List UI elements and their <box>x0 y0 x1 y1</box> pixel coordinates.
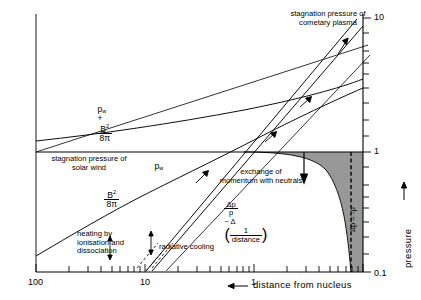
x-tick-label-0.1: 0.1 <box>374 268 387 278</box>
y-axis-label: pressure <box>403 229 414 268</box>
x-label-arrow-icon <box>228 283 248 288</box>
y-axis-ticks <box>363 18 371 272</box>
annotation-exchange-formula: Δpp ~ Δ (1distance) <box>216 192 267 253</box>
dp-over-p-fraction: Δpp <box>224 201 237 218</box>
x-axis-ticks <box>36 264 363 272</box>
plot-svg <box>0 0 421 300</box>
b2-over-8pi-fraction: B28π <box>97 124 112 144</box>
x-tick-label-100: 100 <box>28 277 43 287</box>
pw-sub: w <box>102 108 106 114</box>
y-tick-label-10: 10 <box>374 12 384 22</box>
annotation-b2-8pi: B28π <box>95 180 119 219</box>
x-tick-label-10: 10 <box>140 277 150 287</box>
pw-op: + <box>97 113 102 123</box>
b2-8pi-fraction: B28π <box>104 190 119 210</box>
annotation-pw-plus-b2: pw + B28π <box>88 95 112 153</box>
b2-exp: 2 <box>106 123 109 129</box>
series-cometary-line-d <box>36 45 368 152</box>
b2-den: 8π <box>97 134 112 143</box>
pw-label-sub: w <box>159 165 163 171</box>
annotation-pw-label: pw <box>145 152 163 181</box>
x-axis-label: distance from nucleus <box>253 280 352 291</box>
figure-root: stagnation pressure of cometary plasma p… <box>0 0 421 300</box>
one-over-distance-fraction: 1distance <box>230 227 262 244</box>
annotation-radiative-cooling: radiative cooling <box>159 243 214 252</box>
b2-only-exp: 2 <box>113 189 116 195</box>
y-tick-label-1: 1 <box>374 146 379 156</box>
b2-only-den: 8π <box>104 200 119 209</box>
annotation-heating: heating by ionisation and dissociation <box>77 230 124 256</box>
annotation-cometary-plasma: stagnation pressure of cometary plasma <box>284 10 372 27</box>
inv-den: distance <box>230 236 262 244</box>
annotation-exchange-momentum: exchange of momentum with neutrals <box>207 168 315 185</box>
relation-symbol: ~ Δ <box>224 217 235 226</box>
paren-close: ) <box>262 226 267 243</box>
y-label-arrow-icon <box>401 182 406 200</box>
annotation-solar-wind: stagnation pressure of solar wind <box>29 155 149 172</box>
annotation-dp-equals-minus-p: Δp = -p <box>349 207 358 232</box>
